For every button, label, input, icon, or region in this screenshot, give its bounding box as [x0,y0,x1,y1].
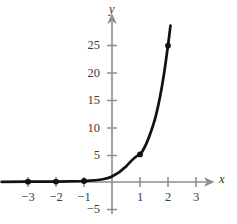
y-axis-label: y [109,3,115,16]
data-point-1 [137,152,143,158]
data-point-2 [165,43,171,49]
y-tick-label-10: 10 [80,122,100,135]
data-point--2 [53,179,59,185]
y-tick-label--5: −5 [74,203,100,216]
y-tick-label-20: 20 [80,67,100,80]
exponential-function-graph: y x 25 20 15 10 5 −5 −3 −2 −1 1 2 3 [0,0,237,224]
data-point--3 [25,179,31,185]
y-tick-label-5: 5 [80,149,100,162]
x-tick-label--3: −3 [15,191,41,204]
axis-lines [2,22,206,214]
x-axis-label: x [219,173,225,186]
data-point-markers [25,43,171,185]
x-tick-label-3: 3 [186,191,206,204]
x-tick-label--2: −2 [43,191,69,204]
x-tick-label-2: 2 [158,191,178,204]
y-tick-label-25: 25 [80,39,100,52]
x-tick-label--1: −1 [71,191,97,204]
y-tick-label-15: 15 [80,94,100,107]
data-point--1 [81,178,87,184]
x-tick-label-1: 1 [130,191,150,204]
